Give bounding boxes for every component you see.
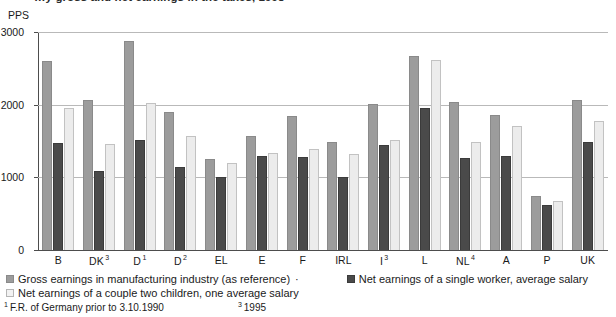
chart-figure: …y gross and net earnings in the taxes, … (0, 0, 616, 317)
y-tick-label-1000: 1000 (1, 171, 24, 183)
x-axis-label-D2: D2 (174, 254, 187, 267)
bar-gross (246, 136, 256, 250)
bar-net-couple (64, 108, 74, 250)
x-axis-label-D1: D1 (133, 254, 146, 267)
footnote-1-marker: 1 (4, 301, 8, 308)
legend-row-1: Gross earnings in manufacturing industry… (6, 272, 610, 286)
y-tick-label-2000: 2000 (1, 99, 24, 111)
footnote-3: 31995 (238, 301, 266, 313)
bar-net-couple (471, 142, 481, 250)
bar-gross (409, 56, 419, 250)
legend-swatch-net-couple-icon (6, 289, 14, 297)
legend-swatch-net-single-icon (347, 275, 355, 283)
x-axis-label-IRL: IRL (335, 254, 351, 266)
bar-net-single (298, 157, 308, 250)
bar-net-couple (309, 149, 319, 250)
bar-net-couple (349, 154, 359, 250)
footnote-3-text: 1995 (244, 302, 266, 313)
x-axis-label-E: E (258, 254, 265, 266)
chart-legend: Gross earnings in manufacturing industry… (6, 272, 610, 300)
bar-gross (449, 102, 459, 250)
bar-group (404, 32, 445, 250)
bar-gross (327, 142, 337, 250)
legend-item-gross: Gross earnings in manufacturing industry… (6, 273, 290, 285)
bar-net-single (379, 145, 389, 250)
x-axis-label-DK3: DK3 (89, 254, 109, 267)
bar-net-single (216, 177, 226, 250)
legend-item-net-single: Net earnings of a single worker, average… (347, 273, 588, 285)
bar-net-couple (268, 153, 278, 250)
bar-group (160, 32, 201, 250)
bar-gross (287, 116, 297, 250)
footnote-1: 1F.R. of Germany prior to 3.10.1990 (4, 301, 164, 313)
bar-net-single (542, 205, 552, 250)
y-tick-label-3000: 3000 (1, 26, 24, 38)
x-axis-label-F: F (299, 254, 305, 266)
bar-net-couple (186, 136, 196, 250)
bar-net-single (135, 140, 145, 250)
y-tick-mark-0 (34, 250, 38, 251)
bar-net-couple (553, 201, 563, 250)
x-axis-label-A: A (503, 254, 510, 266)
chart-title-clipped: …y gross and net earnings in the taxes, … (0, 0, 616, 5)
bar-net-single (94, 171, 104, 250)
bar-gross (531, 196, 541, 250)
x-axis-label-NL4: NL4 (456, 254, 475, 267)
bar-net-single (583, 142, 593, 250)
x-axis-label-P: P (543, 254, 550, 266)
x-axis-label-B: B (55, 254, 62, 266)
y-tick-label-0: 0 (18, 244, 24, 256)
legend-item-net-couple: Net earnings of a couple two children, o… (6, 287, 299, 299)
footnote-3-marker: 3 (238, 301, 242, 308)
footnotes: 1F.R. of Germany prior to 3.10.1990 3199… (4, 301, 266, 313)
bar-gross (572, 100, 582, 250)
x-axis-label-I3: I3 (380, 254, 388, 267)
x-axis-baseline (38, 250, 608, 251)
bar-net-single (501, 156, 511, 250)
plot-area: 0100020003000 (38, 32, 608, 250)
bar-gross (83, 100, 93, 250)
legend-row-2: Net earnings of a couple two children, o… (6, 286, 610, 300)
bar-net-single (53, 143, 63, 250)
legend-label-net-single: Net earnings of a single worker, average… (359, 273, 588, 285)
chart-title-text: …y gross and net earnings in the taxes, … (0, 0, 616, 3)
bar-group (38, 32, 79, 250)
bar-gross (124, 41, 134, 250)
bar-gross (490, 115, 500, 250)
bar-net-couple (227, 163, 237, 250)
x-axis-label-EL: EL (215, 254, 228, 266)
x-axis-label-UK: UK (580, 254, 595, 266)
bar-net-couple (146, 103, 156, 250)
bar-net-couple (594, 121, 604, 250)
bar-group (323, 32, 364, 250)
bar-group (201, 32, 242, 250)
bar-group (79, 32, 120, 250)
bar-gross (205, 159, 215, 250)
footnote-1-text: F.R. of Germany prior to 3.10.1990 (10, 302, 164, 313)
bar-group (119, 32, 160, 250)
bar-gross (164, 112, 174, 250)
bar-group (486, 32, 527, 250)
legend-separator: · (295, 273, 299, 285)
legend-label-net-couple: Net earnings of a couple two children, o… (18, 287, 299, 299)
bar-net-couple (105, 144, 115, 250)
y-axis-unit-label: PPS (8, 9, 29, 21)
bar-net-single (257, 156, 267, 250)
x-axis-label-L: L (422, 254, 428, 266)
bar-group (567, 32, 608, 250)
bar-net-single (420, 108, 430, 250)
bar-net-single (175, 167, 185, 250)
bar-net-couple (390, 140, 400, 250)
bar-net-single (460, 158, 470, 250)
bar-group (364, 32, 405, 250)
bar-net-couple (512, 126, 522, 250)
bar-gross (42, 61, 52, 250)
legend-label-gross: Gross earnings in manufacturing industry… (18, 273, 290, 285)
bar-group (282, 32, 323, 250)
bar-group (445, 32, 486, 250)
legend-swatch-gross-icon (6, 275, 14, 283)
bar-group (242, 32, 283, 250)
bar-net-couple (431, 60, 441, 250)
bar-group (527, 32, 568, 250)
bar-net-single (338, 177, 348, 250)
